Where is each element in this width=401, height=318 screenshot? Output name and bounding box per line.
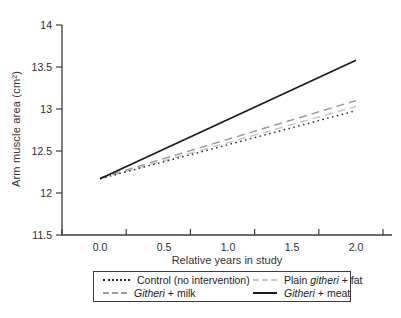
legend-entry-meat: Githeri + meat bbox=[244, 287, 363, 301]
legend-label: Githeri + meat bbox=[284, 287, 350, 299]
svg-text:13.5: 13.5 bbox=[32, 61, 53, 73]
milk-line-swatch bbox=[103, 292, 127, 294]
svg-text:12.5: 12.5 bbox=[32, 145, 53, 157]
svg-text:1.0: 1.0 bbox=[221, 241, 236, 253]
x-axis-label: Relative years in study bbox=[62, 254, 392, 266]
svg-text:14: 14 bbox=[40, 19, 52, 31]
legend-label: Plain githeri + fat bbox=[284, 274, 363, 286]
svg-text:11.5: 11.5 bbox=[32, 229, 52, 241]
legend-entry-milk: Githeri + milk bbox=[94, 287, 244, 301]
svg-text:13: 13 bbox=[40, 103, 52, 115]
control-line-swatch bbox=[103, 279, 130, 281]
legend-label: Control (no intervention) bbox=[137, 274, 250, 286]
svg-text:0.5: 0.5 bbox=[157, 241, 172, 253]
svg-text:1.5: 1.5 bbox=[285, 241, 300, 253]
y-axis-label: Arm muscle area (cm²) bbox=[10, 49, 22, 209]
svg-text:12: 12 bbox=[40, 187, 52, 199]
legend-label: Githeri + milk bbox=[134, 287, 196, 299]
chart-figure: 11.51212.51313.5140.00.51.01.52.0 Arm mu… bbox=[0, 0, 401, 318]
meat-line-swatch bbox=[253, 292, 277, 294]
legend-entry-control: Control (no intervention) bbox=[94, 273, 244, 287]
chart-legend: Control (no intervention) Plain githeri … bbox=[93, 271, 351, 302]
fat-line-swatch bbox=[253, 279, 277, 281]
svg-text:2.0: 2.0 bbox=[349, 241, 364, 253]
legend-entry-fat: Plain githeri + fat bbox=[244, 273, 363, 287]
svg-text:0.0: 0.0 bbox=[93, 241, 108, 253]
